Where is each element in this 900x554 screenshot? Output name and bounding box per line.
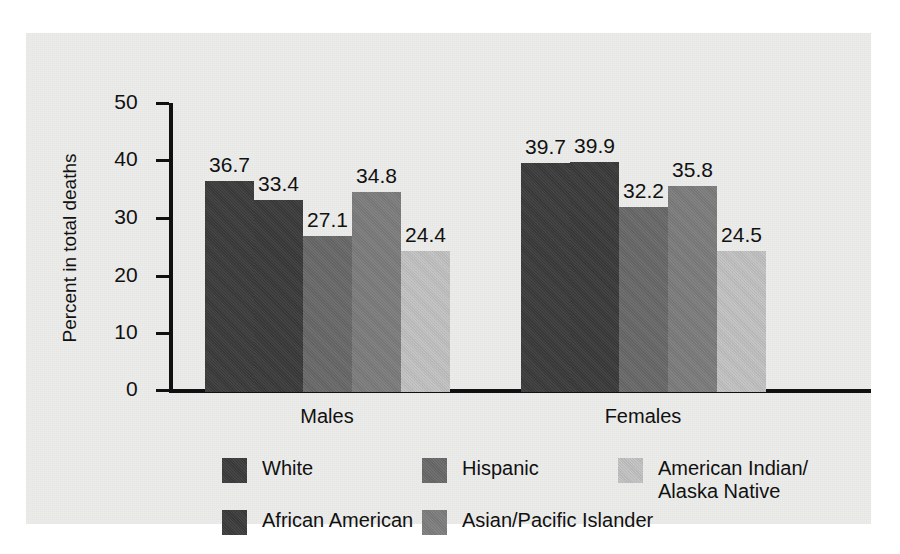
chart-panel: Percent in total deaths 50 40 30 20 10 0… — [26, 33, 871, 524]
legend-item-asian: Asian/Pacific Islander — [422, 509, 653, 535]
x-group-label-females: Females — [605, 405, 682, 428]
bar-value-females-asian: 35.8 — [672, 158, 713, 182]
bar-value-females-african-american: 39.9 — [574, 134, 615, 158]
y-axis-label: Percent in total deaths — [59, 153, 81, 342]
plot-area: 36.7 33.4 27.1 34.8 24.4 39.7 39.9 32.2 … — [169, 104, 871, 392]
bar-females-african-american: 39.9 — [570, 162, 619, 392]
y-tick-label-50: 50 — [114, 90, 138, 114]
bar-value-males-hispanic: 27.1 — [307, 208, 348, 232]
bar-value-females-american-indian: 24.5 — [721, 223, 762, 247]
legend-item-african-american: African American — [222, 509, 413, 535]
bar-males-asian: 34.8 — [352, 192, 401, 392]
legend-swatch-african-american — [222, 510, 247, 535]
bar-value-males-white: 36.7 — [209, 153, 250, 177]
bar-females-hispanic: 32.2 — [619, 207, 668, 392]
y-tick-label-10: 10 — [114, 320, 138, 344]
x-group-label-males: Males — [300, 405, 353, 428]
legend-swatch-american-indian — [618, 458, 643, 483]
bar-males-african-american: 33.4 — [254, 200, 303, 392]
chart-screenshot: Percent in total deaths 50 40 30 20 10 0… — [0, 0, 900, 554]
legend-label-white: White — [262, 457, 313, 480]
bar-value-females-white: 39.7 — [525, 135, 566, 159]
legend-swatch-asian — [422, 510, 447, 535]
bar-females-white: 39.7 — [521, 163, 570, 392]
y-tick-label-20: 20 — [114, 263, 138, 287]
bar-females-american-indian: 24.5 — [717, 251, 766, 392]
y-tick-label-0: 0 — [126, 377, 138, 401]
y-tick-0: 0 — [156, 389, 169, 392]
y-tick-label-40: 40 — [114, 147, 138, 171]
legend-swatch-white — [222, 458, 247, 483]
bar-males-hispanic: 27.1 — [303, 236, 352, 392]
legend-label-african-american: African American — [262, 509, 413, 532]
y-tick-40: 40 — [156, 159, 169, 162]
y-tick-10: 10 — [156, 332, 169, 335]
legend-swatch-hispanic — [422, 458, 447, 483]
bar-males-white: 36.7 — [205, 181, 254, 392]
y-tick-50: 50 — [156, 102, 169, 105]
y-tick-20: 20 — [156, 275, 169, 278]
bar-value-males-american-indian: 24.4 — [405, 223, 446, 247]
bar-value-females-hispanic: 32.2 — [623, 179, 664, 203]
y-tick-30: 30 — [156, 217, 169, 220]
legend-item-hispanic: Hispanic — [422, 457, 539, 483]
legend-label-hispanic: Hispanic — [462, 457, 539, 480]
y-tick-label-30: 30 — [114, 205, 138, 229]
legend-item-white: White — [222, 457, 313, 483]
legend-item-american-indian: American Indian/ Alaska Native — [618, 457, 808, 503]
legend-label-american-indian: American Indian/ Alaska Native — [658, 457, 808, 503]
legend-label-asian: Asian/Pacific Islander — [462, 509, 653, 532]
bar-value-males-asian: 34.8 — [356, 164, 397, 188]
bar-males-american-indian: 24.4 — [401, 251, 450, 392]
bar-value-males-african-american: 33.4 — [258, 172, 299, 196]
bar-females-asian: 35.8 — [668, 186, 717, 392]
